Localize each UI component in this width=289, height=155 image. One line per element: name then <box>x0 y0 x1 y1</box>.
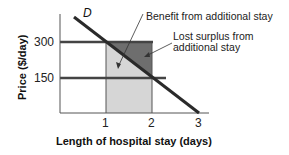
xtick-2: 2 <box>148 116 155 130</box>
demand-label: D <box>83 6 92 20</box>
chart: D Benefit from additional stay Lost surp… <box>0 0 289 155</box>
xtick-1: 1 <box>102 116 109 130</box>
y-axis-label: Price ($/day) <box>16 34 28 100</box>
annotation-benefit: Benefit from additional stay <box>146 10 273 22</box>
annotation-lost-line2: additional stay <box>173 41 241 53</box>
x-axis-label: Length of hospital stay (days) <box>56 135 212 147</box>
ytick-150: 150 <box>34 71 54 85</box>
ytick-300: 300 <box>34 35 54 49</box>
xtick-3: 3 <box>195 116 202 130</box>
